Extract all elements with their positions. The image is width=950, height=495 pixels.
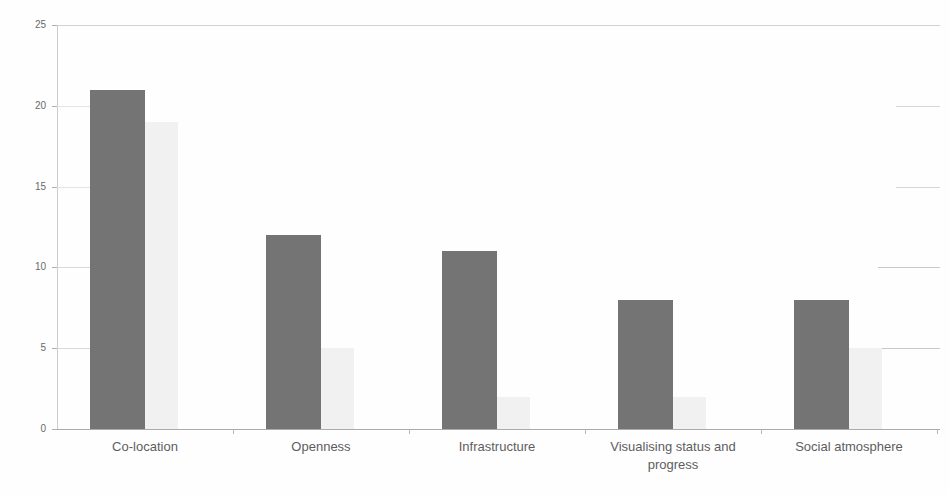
bar-series2-2 <box>497 397 530 429</box>
x-axis-line <box>57 429 940 430</box>
category-label-line: Social atmosphere <box>795 439 903 454</box>
y-tick-label-5: 5 <box>16 343 46 353</box>
category-tick-1 <box>233 429 234 434</box>
bar-series1-2 <box>442 251 497 429</box>
category-label-line: Openness <box>291 439 350 454</box>
y-tick-label-10: 10 <box>16 262 46 272</box>
bar-group <box>585 25 761 429</box>
category-label-line: progress <box>648 457 699 472</box>
plot-area <box>57 25 940 430</box>
category-tick-3 <box>585 429 586 434</box>
bar-series2-4 <box>849 348 882 429</box>
bar-group <box>761 25 937 429</box>
bar-series2-0 <box>145 122 178 429</box>
category-tick-end <box>937 429 938 434</box>
category-tick-4 <box>761 429 762 434</box>
y-tick-mark-0 <box>52 429 57 430</box>
category-label-line: Co-location <box>112 439 178 454</box>
y-tick-label-15: 15 <box>16 182 46 192</box>
bar-group <box>233 25 409 429</box>
bar-series2-1 <box>321 348 354 429</box>
category-label-0: Co-location <box>57 438 233 456</box>
category-label-4: Social atmosphere <box>761 438 937 456</box>
category-label-3: Visualising status andprogress <box>585 438 761 475</box>
bar-series1-0 <box>90 90 145 429</box>
bar-series1-1 <box>266 235 321 429</box>
category-label-line: Infrastructure <box>459 439 536 454</box>
y-tick-label-20: 20 <box>16 101 46 111</box>
category-label-1: Openness <box>233 438 409 456</box>
category-label-line: Visualising status and <box>610 439 736 454</box>
category-tick-2 <box>409 429 410 434</box>
bar-series1-4 <box>794 300 849 429</box>
y-tick-label-25: 25 <box>16 20 46 30</box>
bar-chart: 0510152025 Co-locationOpennessInfrastruc… <box>0 0 950 495</box>
y-tick-label-0: 0 <box>16 424 46 434</box>
bar-series1-3 <box>618 300 673 429</box>
bar-series2-3 <box>673 397 706 429</box>
category-label-2: Infrastructure <box>409 438 585 456</box>
bar-group <box>409 25 585 429</box>
bar-group <box>57 25 233 429</box>
